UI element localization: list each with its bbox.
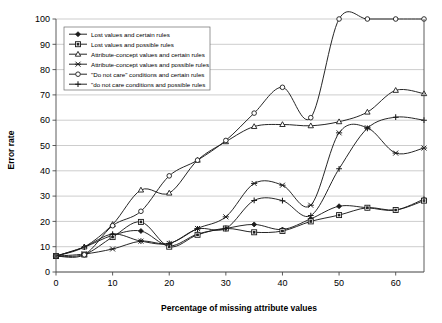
marker-circle-icon (167, 174, 172, 179)
line-chart: 0102030405060708090100 0102030405060 Err… (0, 0, 442, 323)
y-tick-label: 20 (40, 217, 50, 227)
marker-circle-icon (308, 115, 313, 120)
legend-label: Attribute-concept values and certain rul… (91, 51, 205, 58)
legend-label: "do not care conditions and possible rul… (91, 81, 205, 88)
y-tick-label: 90 (40, 40, 50, 50)
y-tick-label: 30 (40, 191, 50, 201)
legend-label: Attribute-concept values and possible ru… (91, 61, 209, 68)
y-tick-label: 50 (40, 141, 50, 151)
marker-circle-icon (224, 138, 229, 143)
legend: Lost values and certain rulesLost values… (64, 27, 210, 90)
marker-square-icon (338, 214, 340, 216)
marker-circle-icon (393, 17, 398, 22)
legend-label: "Do not care" conditions and certain rul… (91, 71, 204, 78)
x-tick-label: 30 (221, 278, 231, 288)
y-tick-label: 0 (45, 267, 50, 277)
marker-circle-icon (139, 209, 144, 214)
marker-circle-icon (195, 158, 200, 163)
marker-circle-icon (365, 17, 370, 22)
y-axis-title: Error rate (6, 130, 16, 169)
x-tick-label: 10 (108, 278, 118, 288)
chart-container: 0102030405060708090100 0102030405060 Err… (0, 0, 442, 323)
legend-label: Lost values and possible rules (91, 41, 174, 48)
marker-square-icon (197, 234, 199, 236)
marker-square-icon (395, 209, 397, 211)
marker-circle-icon (252, 111, 257, 116)
x-tick-label: 40 (277, 278, 287, 288)
marker-square-icon (282, 230, 284, 232)
y-tick-label: 100 (35, 14, 50, 24)
marker-square-icon (140, 221, 142, 223)
marker-circle-icon (110, 223, 115, 228)
x-axis-title: Percentage of missing attribute values (161, 303, 317, 313)
marker-square-icon (310, 221, 312, 223)
marker-circle-icon (76, 72, 81, 77)
x-tick-label: 60 (391, 278, 401, 288)
y-tick-label: 70 (40, 90, 50, 100)
marker-circle-icon (280, 85, 285, 90)
marker-square-icon (253, 231, 255, 233)
marker-square-icon (77, 43, 79, 45)
x-tick-label: 0 (53, 278, 58, 288)
legend-label: Lost values and certain rules (91, 31, 170, 38)
y-tick-label: 40 (40, 166, 50, 176)
marker-circle-icon (82, 252, 87, 257)
x-tick-label: 20 (164, 278, 174, 288)
marker-square-icon (366, 207, 368, 209)
y-tick-label: 10 (40, 242, 50, 252)
y-tick-label: 80 (40, 65, 50, 75)
y-tick-label: 60 (40, 115, 50, 125)
marker-circle-icon (337, 17, 342, 22)
x-tick-label: 50 (334, 278, 344, 288)
